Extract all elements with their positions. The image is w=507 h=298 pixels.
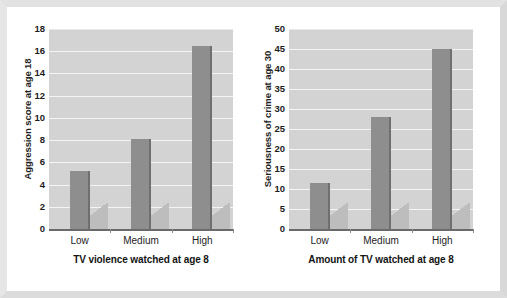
y-tick-label: 8 [40,135,45,145]
y-tick-label: 20 [274,144,285,154]
x-tick-mark [350,229,351,233]
x-tick-mark [172,229,173,233]
y-tick-label: 2 [40,202,45,212]
x-tick-label-low: Low [70,234,88,248]
y-tick-label: 40 [274,64,285,74]
bar-slot [310,29,330,229]
x-tick-label-high: High [192,234,213,248]
bar-slot [70,29,90,229]
x-tick-mark [110,229,111,233]
y-tick-label: 35 [274,84,285,94]
y-tick-label: 30 [274,104,285,114]
figure-page: Aggression score at age 18 0246810121416… [0,0,507,298]
x-axis-tick-labels-left: LowMediumHigh [49,234,233,248]
y-tick-label: 6 [40,157,45,167]
bar-high[interactable] [432,49,452,229]
y-tick-label: 4 [40,180,45,190]
x-tick-mark [412,229,413,233]
bar-low[interactable] [310,183,330,229]
y-axis-ticks-right: 05101520253035404550 [261,29,285,229]
y-tick-label: 0 [40,224,45,234]
x-axis-tick-labels-right: LowMediumHigh [289,234,473,248]
y-axis-ticks-left: 024681012141618 [21,29,45,229]
figure-canvas: Aggression score at age 18 0246810121416… [7,7,500,291]
y-tick-label: 10 [34,113,45,123]
y-tick-label: 18 [34,24,45,34]
y-tick-label: 0 [280,224,285,234]
y-tick-label: 16 [34,46,45,56]
aggression-chart-panel: Aggression score at age 18 0246810121416… [7,7,253,291]
x-axis-line-left [49,229,233,231]
x-tick-label-medium: Medium [123,234,159,248]
x-tick-label-high: High [432,234,453,248]
bar-medium[interactable] [131,139,151,229]
y-tick-label: 15 [274,164,285,174]
bar-series-right [289,29,473,229]
crime-chart-panel: Seriousness of crime at age 30 051015202… [247,7,493,291]
bar-medium[interactable] [371,117,391,229]
plot-area-right [289,29,473,229]
y-tick-label: 5 [280,204,285,214]
bar-slot [192,29,212,229]
x-axis-title-left: TV violence watched at age 8 [49,254,233,265]
x-axis-line-right [289,229,473,231]
x-tick-mark [233,229,234,233]
bar-slot [371,29,391,229]
y-tick-label: 45 [274,44,285,54]
y-tick-label: 50 [274,24,285,34]
bar-slot [432,29,452,229]
x-axis-title-right: Amount of TV watched at age 8 [289,254,473,265]
x-tick-label-low: Low [310,234,328,248]
bar-high[interactable] [192,46,212,229]
bar-slot [131,29,151,229]
y-tick-label: 25 [274,124,285,134]
y-tick-label: 10 [274,184,285,194]
x-tick-mark [473,229,474,233]
bar-series-left [49,29,233,229]
y-tick-label: 12 [34,91,45,101]
bar-low[interactable] [70,171,90,229]
y-tick-label: 14 [34,68,45,78]
plot-area-left [49,29,233,229]
x-tick-label-medium: Medium [363,234,399,248]
